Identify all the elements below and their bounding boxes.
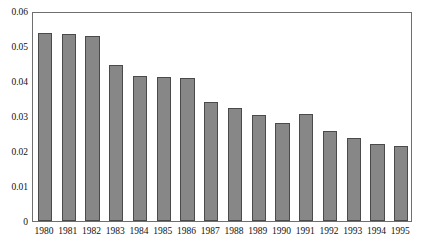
y-tick-label: 0 <box>23 217 28 227</box>
x-tick-label: 1989 <box>246 225 270 237</box>
bar <box>347 138 361 221</box>
bar <box>275 123 289 221</box>
x-tick-label: 1992 <box>317 225 341 237</box>
x-tick-label: 1987 <box>198 225 222 237</box>
x-tick-label: 1982 <box>80 225 104 237</box>
bars-layer <box>33 13 411 221</box>
bar <box>62 34 76 221</box>
bar <box>394 146 408 221</box>
y-tick-label: 0.01 <box>11 182 28 192</box>
bar <box>204 102 218 221</box>
y-tick-label: 0.04 <box>11 77 28 87</box>
x-tick-label: 1995 <box>388 225 412 237</box>
bar <box>85 36 99 221</box>
x-tick-label: 1983 <box>103 225 127 237</box>
y-tick-label: 0.06 <box>11 7 28 17</box>
bar <box>252 115 266 221</box>
y-tick-label: 0.05 <box>11 42 28 52</box>
bar <box>228 108 242 221</box>
bar <box>157 77 171 221</box>
x-tick-label: 1991 <box>293 225 317 237</box>
bar <box>180 78 194 221</box>
x-tick-label: 1994 <box>365 225 389 237</box>
bar <box>299 114 313 221</box>
x-tick-label: 1990 <box>270 225 294 237</box>
x-tick-label: 1984 <box>127 225 151 237</box>
y-tick-label: 0.02 <box>11 147 28 157</box>
x-tick-label: 1986 <box>175 225 199 237</box>
bar <box>109 65 123 221</box>
bar <box>323 131 337 221</box>
y-axis: 00.010.020.030.040.050.06 <box>0 0 30 250</box>
y-tick-label: 0.03 <box>11 112 28 122</box>
x-tick-label: 1993 <box>341 225 365 237</box>
plot-area <box>32 12 412 222</box>
x-tick-label: 1980 <box>32 225 56 237</box>
x-tick-label: 1981 <box>56 225 80 237</box>
bar <box>38 33 52 221</box>
bar <box>370 144 384 221</box>
x-tick-label: 1985 <box>151 225 175 237</box>
bar-chart: 00.010.020.030.040.050.06 19801981198219… <box>0 0 422 250</box>
x-tick-label: 1988 <box>222 225 246 237</box>
x-axis: 1980198119821983198419851986198719881989… <box>32 225 412 245</box>
bar <box>133 76 147 221</box>
